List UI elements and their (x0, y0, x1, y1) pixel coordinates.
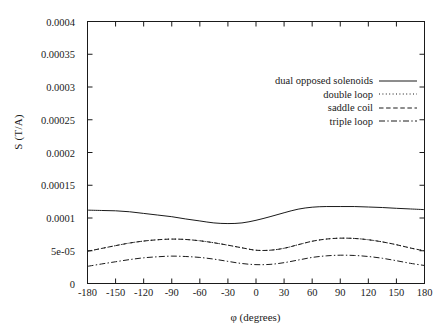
plot-frame (88, 22, 425, 284)
x-tick-label: 0 (253, 287, 258, 298)
x-tick-label: 150 (389, 287, 405, 298)
series-line-3 (88, 255, 425, 266)
x-tick-label: -30 (221, 287, 235, 298)
chart-figure: S (T/A) φ (degrees) 05e-050.00010.000150… (0, 0, 443, 335)
x-tick-label: -120 (134, 287, 153, 298)
x-tick-label: 90 (335, 287, 346, 298)
y-tick-label: 0.0004 (0, 16, 82, 27)
y-tick-label: 5e-05 (0, 245, 82, 256)
legend-line-sample (378, 116, 418, 126)
legend-item-label: double loop (323, 89, 378, 100)
y-tick-label: 0.0003 (0, 82, 82, 93)
x-tick-label: 180 (417, 287, 433, 298)
x-tick-label: -90 (165, 287, 179, 298)
y-tick-label: 0.0002 (0, 147, 82, 158)
y-tick-label: 0.00025 (0, 114, 82, 125)
x-tick-label: 60 (307, 287, 318, 298)
x-tick-label: 120 (360, 287, 376, 298)
y-tick-label: 0.00015 (0, 180, 82, 191)
legend-item-label: saddle coil (328, 102, 378, 113)
y-tick-label: 0 (0, 278, 82, 289)
x-axis-label: φ (degrees) (87, 311, 424, 323)
legend-item: saddle coil (232, 101, 418, 115)
series-line-1 (88, 238, 425, 251)
series-line-0 (88, 206, 425, 223)
legend-item: triple loop (232, 115, 418, 129)
x-tick-label: 30 (279, 287, 290, 298)
legend-item-label: triple loop (330, 116, 378, 127)
x-tick-label: -180 (78, 287, 97, 298)
x-tick-label: -150 (106, 287, 125, 298)
y-axis-tick-labels: 05e-050.00010.000150.00020.000250.00030.… (0, 0, 82, 335)
legend-line-sample (378, 76, 418, 86)
legend-item: dual opposed solenoids (232, 74, 418, 88)
legend-item-label: dual opposed solenoids (275, 75, 378, 86)
legend-item: double loop (232, 88, 418, 102)
legend-line-sample (378, 103, 418, 113)
x-tick-label: -60 (193, 287, 207, 298)
legend-line-sample (378, 89, 418, 99)
chart-legend: dual opposed solenoidsdouble loopsaddle … (232, 74, 418, 128)
y-tick-label: 0.00035 (0, 49, 82, 60)
y-tick-label: 0.0001 (0, 213, 82, 224)
